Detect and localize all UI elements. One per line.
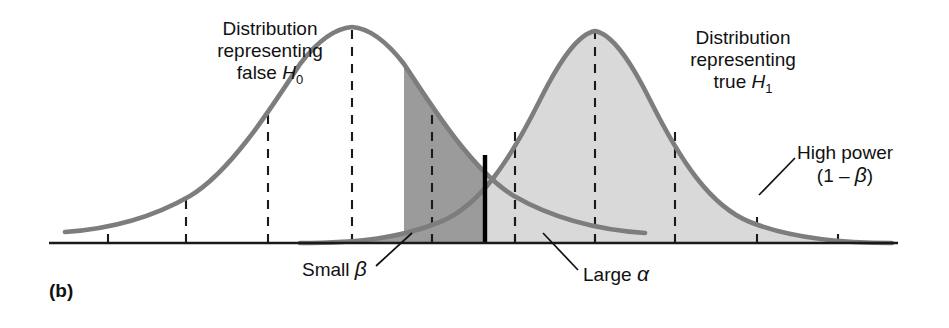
label-false-h0-subscript: 0: [296, 72, 303, 87]
statistical-power-figure: Distribution representing false H0 Distr…: [0, 0, 949, 328]
beta-symbol-region: β: [355, 257, 367, 280]
label-false-h0: Distribution representing false H0: [188, 18, 352, 91]
label-false-h0-line3-prefix: false: [237, 62, 282, 83]
label-true-h1-symbol: H: [752, 71, 766, 92]
label-high-power-close: ): [867, 165, 873, 186]
label-false-h0-line2: representing: [217, 40, 323, 61]
label-high-power-open: (1 –: [817, 165, 855, 186]
label-false-h0-symbol: H: [282, 62, 296, 83]
label-high-power: High power (1 – β): [770, 142, 920, 187]
beta-symbol-power: β: [855, 163, 867, 186]
label-true-h1-line2: representing: [690, 49, 796, 70]
label-high-power-line1: High power: [797, 142, 893, 163]
label-small-beta-text: Small: [302, 259, 355, 280]
label-true-h1-line3-prefix: true: [714, 71, 752, 92]
label-false-h0-line1: Distribution: [222, 18, 317, 39]
label-large-alpha: Large α: [583, 263, 649, 286]
alpha-symbol-region: α: [637, 262, 649, 285]
label-small-beta: Small β: [302, 258, 367, 281]
panel-letter: (b): [49, 280, 73, 302]
label-true-h1-subscript: 1: [765, 81, 772, 96]
label-large-alpha-text: Large: [583, 264, 637, 285]
label-true-h1: Distribution representing true H1: [658, 27, 828, 100]
label-true-h1-line1: Distribution: [695, 27, 790, 48]
